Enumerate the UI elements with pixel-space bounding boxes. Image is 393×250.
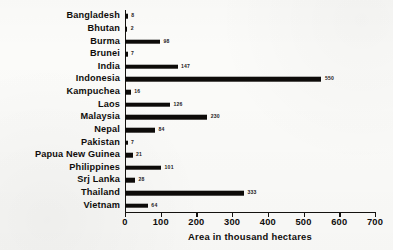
bar <box>125 115 207 120</box>
x-tick <box>161 212 162 217</box>
x-tick <box>339 212 340 217</box>
x-tick <box>196 212 197 217</box>
x-tick <box>268 212 269 217</box>
category-label: Nepal <box>94 125 120 134</box>
x-tick <box>375 212 376 217</box>
bar <box>125 27 127 32</box>
bar-value-label: 126 <box>174 102 183 107</box>
x-tick <box>232 212 233 217</box>
x-tick-label: 200 <box>188 218 204 227</box>
bar <box>125 102 170 107</box>
x-tick <box>125 212 126 217</box>
bar-row: Laos126 <box>125 98 375 111</box>
bar <box>125 77 321 82</box>
bar <box>125 153 133 158</box>
bar-row: Brunei7 <box>125 48 375 61</box>
category-label: Thailand <box>81 188 120 197</box>
bar <box>125 140 128 145</box>
bar-row: Burma98 <box>125 35 375 48</box>
category-label: Pakistan <box>81 138 120 147</box>
bar-row: Nepal84 <box>125 124 375 137</box>
bar-row: Papua New Guinea21 <box>125 149 375 162</box>
bar-value-label: 8 <box>131 14 134 19</box>
bar-row: Kampuchea16 <box>125 86 375 99</box>
bar <box>125 203 148 208</box>
bar-value-label: 21 <box>136 153 142 158</box>
bar-row: Bangladesh8 <box>125 10 375 23</box>
x-tick-label: 700 <box>367 218 383 227</box>
bar-row: Srj Lanka28 <box>125 174 375 187</box>
bar-value-label: 333 <box>247 191 256 196</box>
bar-row: India147 <box>125 61 375 74</box>
x-tick-label: 0 <box>122 218 127 227</box>
category-label: Kampuchea <box>67 87 120 96</box>
bar <box>125 166 161 171</box>
bar <box>125 128 155 133</box>
bar-value-label: 64 <box>151 203 157 208</box>
bar <box>125 191 244 196</box>
x-tick-label: 400 <box>260 218 276 227</box>
bar-value-label: 84 <box>159 127 165 132</box>
category-label: Bhutan <box>87 24 120 33</box>
bar-value-label: 230 <box>211 115 220 120</box>
bar-value-label: 7 <box>131 52 134 57</box>
category-label: India <box>98 62 120 71</box>
bar-value-label: 98 <box>164 39 170 44</box>
bar-row: Pakistan7 <box>125 136 375 149</box>
bar-row: Thailand333 <box>125 187 375 200</box>
bar-row: Philippines101 <box>125 162 375 175</box>
x-axis-line <box>125 212 375 213</box>
bar <box>125 90 131 95</box>
category-label: Laos <box>98 100 120 109</box>
bar <box>125 14 128 19</box>
bar-value-label: 101 <box>165 165 174 170</box>
bar-value-label: 28 <box>139 178 145 183</box>
bar-value-label: 147 <box>181 64 190 69</box>
bar-row: Indonesia550 <box>125 73 375 86</box>
bar-row: Bhutan2 <box>125 23 375 36</box>
category-label: Burma <box>90 37 120 46</box>
bar-value-label: 16 <box>134 90 140 95</box>
category-label: Indonesia <box>76 75 120 84</box>
plot-area: Bangladesh8Bhutan2Burma98Brunei7India147… <box>125 10 375 212</box>
bar-value-label: 7 <box>131 140 134 145</box>
bar-value-label: 2 <box>131 26 134 31</box>
bar-row: Vietnam64 <box>125 199 375 212</box>
x-tick-label: 600 <box>331 218 347 227</box>
bar-chart: Bangladesh8Bhutan2Burma98Brunei7India147… <box>0 0 393 250</box>
category-label: Vietnam <box>83 201 120 210</box>
x-tick <box>304 212 305 217</box>
category-label: Papua New Guinea <box>35 151 120 160</box>
x-tick-label: 300 <box>224 218 240 227</box>
category-label: Srj Lanka <box>77 176 120 185</box>
bar <box>125 39 160 44</box>
category-label: Bangladesh <box>66 12 120 21</box>
x-axis-title: Area in thousand hectares <box>125 232 375 241</box>
x-tick-label: 500 <box>296 218 312 227</box>
bar <box>125 52 128 57</box>
bar-value-label: 550 <box>325 77 334 82</box>
category-label: Philippines <box>69 163 120 172</box>
x-tick-label: 100 <box>153 218 169 227</box>
bar <box>125 65 178 70</box>
bar-row: Malaysia230 <box>125 111 375 124</box>
category-label: Malaysia <box>80 113 120 122</box>
category-label: Brunei <box>90 50 120 59</box>
bar <box>125 178 135 183</box>
